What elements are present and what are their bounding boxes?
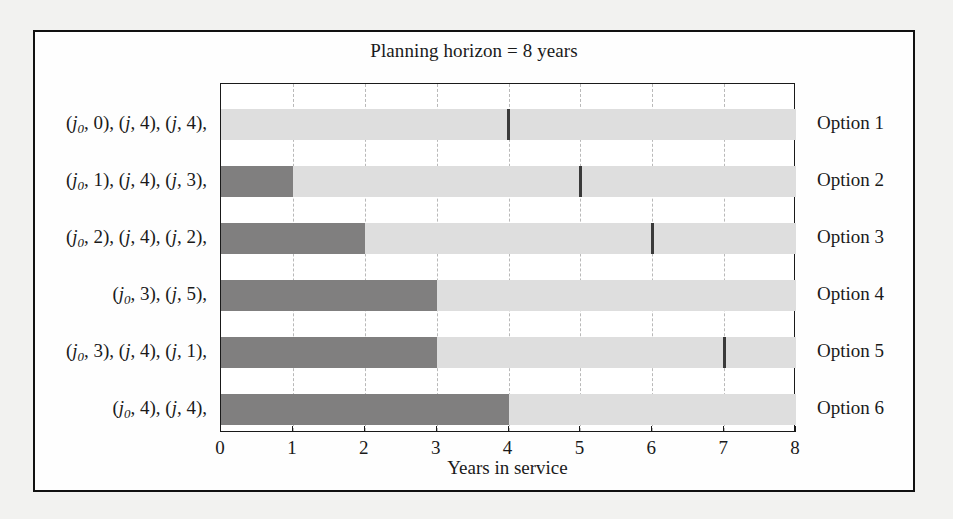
bar-row [221, 223, 794, 254]
x-tick-mark [508, 426, 509, 432]
bar-segment-light [437, 280, 796, 311]
bar-segment-dark [221, 394, 509, 425]
chart-title: Planning horizon = 8 years [35, 40, 913, 62]
bar-segment-dark [221, 166, 293, 197]
policy-label: (j0, 2), (j, 4), (j, 2), [0, 226, 207, 251]
bar-segment-light [293, 166, 796, 197]
replacement-marker [579, 166, 582, 197]
x-tick-label: 8 [775, 437, 815, 459]
x-tick-mark [436, 426, 437, 432]
policy-label: (j0, 3), (j, 4), (j, 1), [0, 340, 207, 365]
figure-frame: Planning horizon = 8 years Years in serv… [33, 30, 915, 492]
x-tick-label: 0 [200, 437, 240, 459]
option-label: Option 6 [817, 397, 884, 419]
x-tick-label: 3 [416, 437, 456, 459]
x-tick-label: 1 [272, 437, 312, 459]
bar-segment-dark [221, 337, 437, 368]
option-label: Option 4 [817, 283, 884, 305]
bar-segment-dark [221, 280, 437, 311]
bar-segment-dark [221, 223, 365, 254]
x-tick-mark [651, 426, 652, 432]
replacement-marker [507, 109, 510, 140]
bar-segment-light [365, 223, 796, 254]
x-tick-mark [795, 426, 796, 432]
x-axis-title: Years in service [220, 457, 795, 479]
policy-label: (j0, 0), (j, 4), (j, 4), [0, 112, 207, 137]
bar-row [221, 166, 794, 197]
x-tick-mark [579, 426, 580, 432]
option-label: Option 2 [817, 169, 884, 191]
x-tick-label: 6 [631, 437, 671, 459]
option-label: Option 3 [817, 226, 884, 248]
x-tick-label: 5 [559, 437, 599, 459]
x-tick-mark [723, 426, 724, 432]
bar-row [221, 394, 794, 425]
policy-label: (j0, 1), (j, 4), (j, 3), [0, 169, 207, 194]
plot-area [220, 83, 795, 432]
replacement-marker [651, 223, 654, 254]
policy-label: (j0, 4), (j, 4), [0, 397, 207, 422]
x-tick-label: 7 [703, 437, 743, 459]
bar-segment-light [509, 394, 797, 425]
x-tick-mark [220, 426, 221, 432]
option-label: Option 1 [817, 112, 884, 134]
option-label: Option 5 [817, 340, 884, 362]
policy-label: (j0, 3), (j, 5), [0, 283, 207, 308]
x-tick-label: 2 [344, 437, 384, 459]
bar-row [221, 337, 794, 368]
bar-row [221, 280, 794, 311]
replacement-marker [723, 337, 726, 368]
x-tick-mark [292, 426, 293, 432]
x-tick-label: 4 [488, 437, 528, 459]
bar-segment-light [437, 337, 796, 368]
bar-row [221, 109, 794, 140]
x-tick-mark [364, 426, 365, 432]
